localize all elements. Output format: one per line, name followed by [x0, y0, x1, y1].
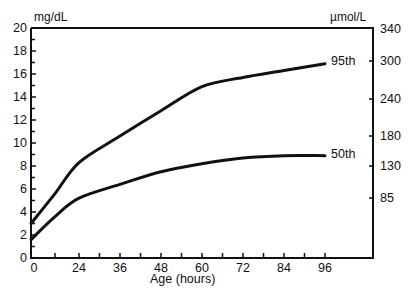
- y-tick-label: 10: [13, 136, 27, 150]
- y-tick-label: 14: [13, 90, 27, 104]
- y-tick-label: 4: [20, 205, 27, 219]
- x-tick-label: 0: [31, 261, 38, 275]
- x-tick-label: 96: [318, 261, 332, 275]
- y-tick-label: 6: [20, 182, 27, 196]
- series-label-95th: 95th: [331, 54, 355, 68]
- bilirubin-percentile-chart: mg/dL µmol/L 024681012141618208513018024…: [0, 0, 409, 301]
- x-tick-label: 72: [236, 261, 250, 275]
- y-tick-label: 20: [13, 21, 27, 35]
- right-y-tick-label: 240: [380, 92, 401, 106]
- y-tick-label: 8: [20, 159, 27, 173]
- x-tick-label: 24: [72, 261, 86, 275]
- y-tick-label: 18: [13, 44, 27, 58]
- y-tick-label: 12: [13, 113, 27, 127]
- x-tick-label: 84: [277, 261, 291, 275]
- plot-frame: [31, 28, 373, 258]
- series-label-50th: 50th: [331, 147, 355, 161]
- right-unit-label: µmol/L: [330, 10, 367, 24]
- right-y-tick-label: 180: [380, 129, 401, 143]
- x-axis-title: Age (hours): [150, 272, 215, 286]
- y-tick-label: 0: [20, 251, 27, 265]
- right-y-tick-label: 85: [380, 191, 394, 205]
- series-lines: [31, 64, 325, 240]
- right-y-tick-label: 300: [380, 54, 401, 68]
- left-unit-label: mg/dL: [34, 10, 68, 24]
- y-tick-label: 16: [13, 67, 27, 81]
- x-tick-label: 36: [113, 261, 127, 275]
- y-tick-label: 2: [20, 228, 27, 242]
- right-y-tick-label: 340: [380, 22, 401, 36]
- right-y-tick-label: 130: [380, 159, 401, 173]
